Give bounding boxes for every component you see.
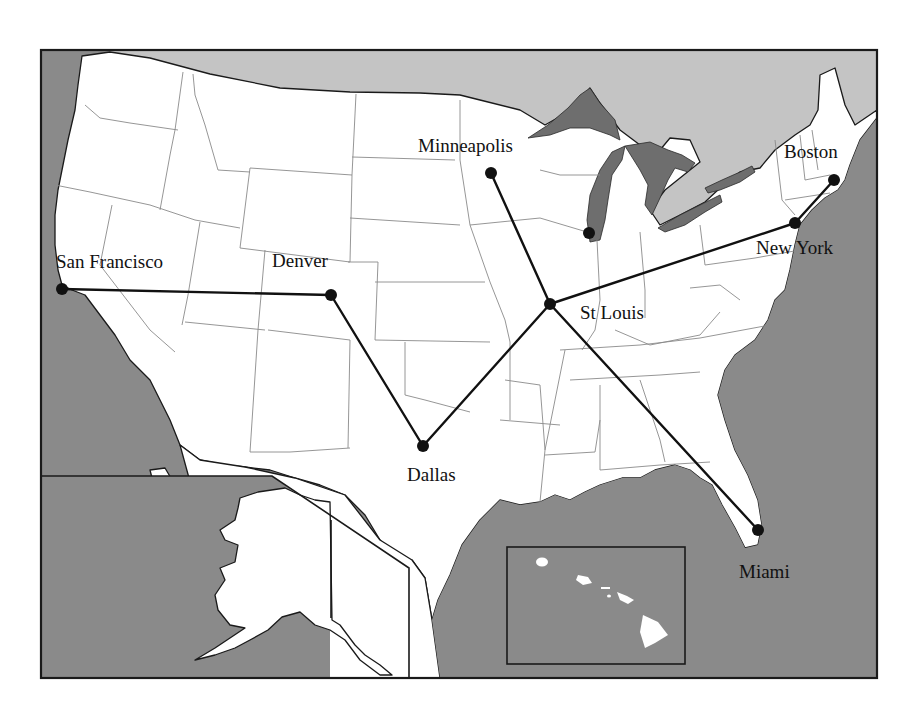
- city-dot-miami[interactable]: [752, 524, 764, 536]
- label-st-louis: St Louis: [580, 302, 644, 323]
- label-boston: Boston: [784, 141, 838, 162]
- label-miami: Miami: [739, 561, 790, 582]
- city-dot-minneapolis[interactable]: [485, 167, 497, 179]
- label-denver: Denver: [272, 250, 329, 271]
- label-new-york: New York: [756, 237, 834, 258]
- city-dot-dallas[interactable]: [417, 440, 429, 452]
- city-dot-new-york[interactable]: [789, 217, 801, 229]
- label-dallas: Dallas: [407, 464, 456, 485]
- city-dot-st-louis[interactable]: [544, 298, 556, 310]
- city-dot-boston[interactable]: [828, 174, 840, 186]
- label-minneapolis: Minneapolis: [418, 135, 513, 156]
- city-dot-denver[interactable]: [325, 289, 337, 301]
- label-san-francisco: San Francisco: [56, 251, 163, 272]
- us-route-map: San Francisco Denver Dallas St Louis Min…: [0, 0, 919, 704]
- city-dot-chicago[interactable]: [583, 227, 595, 239]
- city-dot-san-francisco[interactable]: [56, 283, 68, 295]
